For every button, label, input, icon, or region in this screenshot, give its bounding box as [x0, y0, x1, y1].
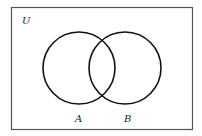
set-a-circle	[43, 32, 115, 104]
universe-frame	[12, 8, 193, 130]
venn-diagram: U A B	[0, 0, 202, 136]
universe-label: U	[22, 15, 31, 26]
set-a-label: A	[74, 113, 82, 124]
set-b-label: B	[123, 113, 131, 124]
set-b-circle	[89, 32, 161, 104]
